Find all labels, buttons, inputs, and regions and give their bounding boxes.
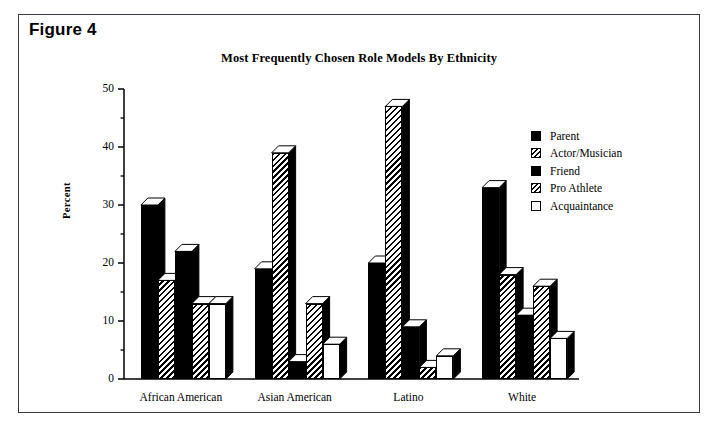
bar-friend-latino — [402, 327, 419, 379]
bar-acquaintance-african-american — [209, 304, 226, 379]
legend-swatch-icon — [531, 201, 541, 211]
bar-parent-latino — [368, 263, 385, 379]
x-tick-label: White — [465, 391, 579, 403]
legend-swatch-icon — [531, 166, 541, 176]
legend-label: Parent — [550, 130, 579, 142]
bar-friend-african-american — [175, 251, 192, 379]
legend-item-friend[interactable]: Friend — [531, 162, 622, 180]
legend-swatch-icon — [531, 183, 541, 193]
y-tick-label: 30 — [84, 198, 114, 210]
legend-swatch-icon — [531, 148, 541, 158]
y-tick-label: 50 — [84, 82, 114, 94]
bar-parent-asian-american — [255, 269, 272, 379]
bar-friend-white — [516, 315, 533, 379]
bar-actor-musician-latino — [385, 106, 402, 379]
legend-label: Acquaintance — [550, 200, 613, 212]
bar-pro-athlete-latino — [419, 367, 436, 379]
y-tick-label: 10 — [84, 314, 114, 326]
bar-side-face — [289, 146, 296, 379]
chart-legend: ParentActor/MusicianFriendPro AthleteAcq… — [531, 127, 622, 215]
figure-frame: Figure 4 Most Frequently Chosen Role Mod… — [18, 14, 700, 413]
bar-pro-athlete-asian-american — [306, 304, 323, 379]
bar-acquaintance-asian-american — [323, 344, 340, 379]
plot-area: Percent 01020304050 African AmericanAsia… — [19, 15, 701, 414]
bar-friend-asian-american — [289, 362, 306, 379]
y-tick-label: 20 — [84, 256, 114, 268]
bar-actor-musician-white — [499, 275, 516, 379]
chart-axes — [19, 15, 701, 414]
y-tick-label: 40 — [84, 140, 114, 152]
bar-actor-musician-asian-american — [272, 153, 289, 379]
legend-label: Actor/Musician — [550, 147, 622, 159]
bar-actor-musician-african-american — [158, 280, 175, 379]
legend-item-pro-athlete[interactable]: Pro Athlete — [531, 180, 622, 198]
y-tick-label: 0 — [84, 372, 114, 384]
legend-label: Pro Athlete — [550, 182, 602, 194]
legend-item-acquaintance[interactable]: Acquaintance — [531, 197, 622, 215]
legend-item-actor-musician[interactable]: Actor/Musician — [531, 145, 622, 163]
legend-label: Friend — [550, 165, 580, 177]
bar-acquaintance-latino — [436, 356, 453, 379]
bar-side-face — [567, 331, 574, 379]
x-tick-label: Asian American — [238, 391, 352, 403]
bar-parent-african-american — [141, 205, 158, 379]
x-tick-label: Latino — [352, 391, 466, 403]
legend-item-parent[interactable]: Parent — [531, 127, 622, 145]
x-tick-label: African American — [124, 391, 238, 403]
bar-parent-white — [482, 188, 499, 379]
bar-pro-athlete-african-american — [192, 304, 209, 379]
bar-acquaintance-white — [550, 338, 567, 379]
bar-pro-athlete-white — [533, 286, 550, 379]
bar-side-face — [226, 297, 233, 379]
legend-swatch-icon — [531, 131, 541, 141]
